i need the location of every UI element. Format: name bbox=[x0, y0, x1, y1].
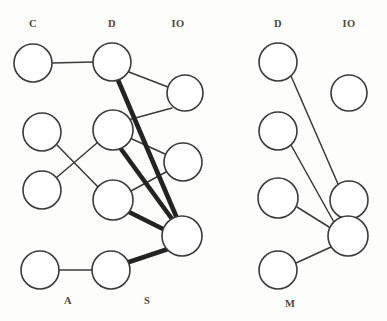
label-left-bottom-a: A bbox=[64, 295, 72, 306]
node-L5[interactable] bbox=[93, 110, 133, 150]
node-R5[interactable] bbox=[258, 178, 298, 218]
node-L1[interactable] bbox=[14, 44, 52, 82]
node-R2-isolated[interactable] bbox=[331, 75, 367, 111]
edge-R6-R7 bbox=[296, 247, 331, 263]
edge-R3-R6 bbox=[291, 145, 335, 224]
node-R3[interactable] bbox=[259, 112, 297, 150]
node-L6[interactable] bbox=[164, 143, 202, 181]
node-R6[interactable] bbox=[328, 216, 368, 256]
edge-thick-L8-L9 bbox=[129, 212, 165, 230]
node-L4[interactable] bbox=[23, 113, 61, 151]
edge-L4-L8 bbox=[57, 145, 98, 187]
right-graph-nodes bbox=[258, 43, 368, 289]
label-right-top-io: IO bbox=[343, 18, 356, 29]
node-L2[interactable] bbox=[93, 43, 131, 81]
edge-L5-L7 bbox=[56, 143, 97, 178]
node-L11[interactable] bbox=[92, 251, 130, 289]
node-L10[interactable] bbox=[21, 251, 59, 289]
graph-figure: C D IO bbox=[0, 0, 387, 321]
label-left-top-c: C bbox=[29, 18, 37, 29]
label-left-top-io: IO bbox=[172, 18, 185, 29]
left-graph-nodes bbox=[14, 43, 203, 289]
edge-thick-L9-L11 bbox=[126, 249, 168, 263]
graph-canvas: C D IO bbox=[0, 0, 387, 321]
node-R1[interactable] bbox=[259, 43, 297, 81]
node-L8[interactable] bbox=[93, 180, 133, 220]
edge-R5-R6 bbox=[297, 207, 329, 227]
edge-L2-L3 bbox=[129, 72, 168, 87]
label-right-top-d: D bbox=[274, 18, 282, 29]
node-L3[interactable] bbox=[167, 75, 203, 111]
label-left-top-d: D bbox=[108, 18, 116, 29]
label-left-bottom-s: S bbox=[144, 295, 150, 306]
node-R4[interactable] bbox=[330, 181, 368, 219]
edge-L1-L2 bbox=[52, 62, 93, 63]
node-R7[interactable] bbox=[259, 251, 297, 289]
node-L7[interactable] bbox=[23, 171, 61, 209]
label-right-bottom-m: M bbox=[285, 298, 295, 309]
node-L9[interactable] bbox=[162, 216, 202, 256]
